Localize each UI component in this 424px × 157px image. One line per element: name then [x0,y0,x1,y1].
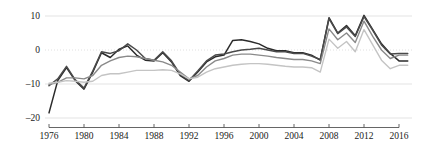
x-axis-tick-labels: 1976198019841988199219962000200420082012… [40,131,409,141]
x-tick-label: 2004 [285,131,304,141]
y-tick-label: 10 [31,11,41,21]
x-tick-label: 1996 [215,131,234,141]
x-tick-label: 1984 [110,131,129,141]
x-tick-label: 1992 [180,131,199,141]
x-axis [49,124,399,128]
data-series-group [49,15,408,113]
x-tick-label: 2012 [355,131,374,141]
line-chart-figure: 100–10–20 197619801984198819921996200020… [0,0,424,157]
x-tick-label: 2000 [250,131,269,141]
y-tick-label: –20 [25,113,41,123]
x-tick-label: 1976 [40,131,59,141]
chart-canvas: 100–10–20 197619801984198819921996200020… [0,0,424,157]
x-tick-label: 2008 [320,131,339,141]
x-tick-label: 2016 [390,131,409,141]
y-tick-label: 0 [35,45,40,55]
series-line-2 [49,17,408,88]
y-tick-label: –10 [25,79,41,89]
x-tick-label: 1980 [75,131,94,141]
x-tick-label: 1988 [145,131,164,141]
y-axis-tick-labels: 100–10–20 [25,11,41,123]
